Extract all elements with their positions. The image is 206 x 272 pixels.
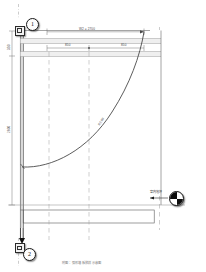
level-marker-icon [169, 191, 184, 206]
node-inner-square [17, 246, 22, 251]
callout-bubble-2[interactable]: 2 [23, 248, 36, 261]
top-dimension-overall [47, 29, 144, 36]
dimension-top-overall: W2 = 2700 [79, 28, 95, 31]
dimension-top-segment-left: 850 [65, 44, 70, 47]
segment-dimension-line [47, 45, 144, 51]
drawing-canvas: W2 = 2700 850 850 350 2600 R2,00 室内地坪 附图… [0, 0, 206, 272]
level-marker-quadrant-4 [177, 199, 184, 206]
left-wall [21, 30, 24, 232]
figure-caption: 附图：弧形墙板放样示意图 [62, 262, 102, 265]
level-label: 室内地坪 [150, 191, 162, 194]
dimension-left-upper: 350 [8, 45, 11, 50]
level-leader-arrow [150, 197, 154, 200]
node-inner-square [17, 28, 22, 33]
segment-dim-tick [88, 47, 90, 49]
node-marker-top[interactable] [15, 26, 25, 36]
callout-bubble-1[interactable]: 1 [26, 18, 39, 31]
drawing-vector-layer [0, 0, 206, 272]
bottom-slab-outline [23, 210, 154, 223]
dimension-left-main: 2600 [8, 126, 11, 133]
grid-dashed-lines [49, 52, 160, 240]
dimension-top-segment-right: 850 [121, 44, 126, 47]
